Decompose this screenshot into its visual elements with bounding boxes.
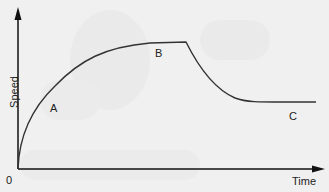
origin-label: 0 [6, 175, 12, 186]
speed-time-chart: A B C 0 Time Speed [0, 0, 329, 192]
x-axis-arrow-icon [312, 166, 325, 173]
label-a: A [50, 103, 57, 114]
x-axis-label: Time [292, 176, 316, 187]
label-b: B [155, 48, 162, 59]
chart-canvas [0, 0, 329, 192]
background-watermark [20, 10, 270, 180]
y-axis-arrow-icon [15, 7, 22, 20]
y-axis-label: Speed [8, 72, 20, 112]
label-c: C [289, 111, 297, 122]
